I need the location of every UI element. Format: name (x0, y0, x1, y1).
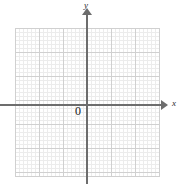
x-axis-label: x (172, 98, 176, 109)
arrow-right-icon (161, 100, 168, 110)
x-axis-line (0, 104, 163, 106)
y-axis-line (86, 14, 88, 184)
coordinate-plane-figure: x y 0 (0, 0, 183, 184)
origin-label: 0 (75, 104, 81, 118)
y-axis-label: y (84, 0, 88, 10)
